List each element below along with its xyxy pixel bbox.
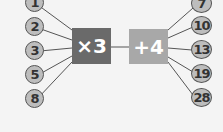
add-box: +4 (129, 29, 168, 64)
output-circle: 13 (191, 40, 212, 59)
input-circle: 5 (25, 65, 44, 84)
input-circle: 3 (25, 41, 44, 60)
output-circle: 10 (191, 16, 212, 35)
input-circle: 2 (25, 17, 44, 36)
output-circle: 19 (191, 64, 212, 83)
input-circle: 8 (25, 89, 44, 108)
output-circle: 28 (191, 88, 212, 107)
multiply-box: ×3 (72, 28, 111, 64)
